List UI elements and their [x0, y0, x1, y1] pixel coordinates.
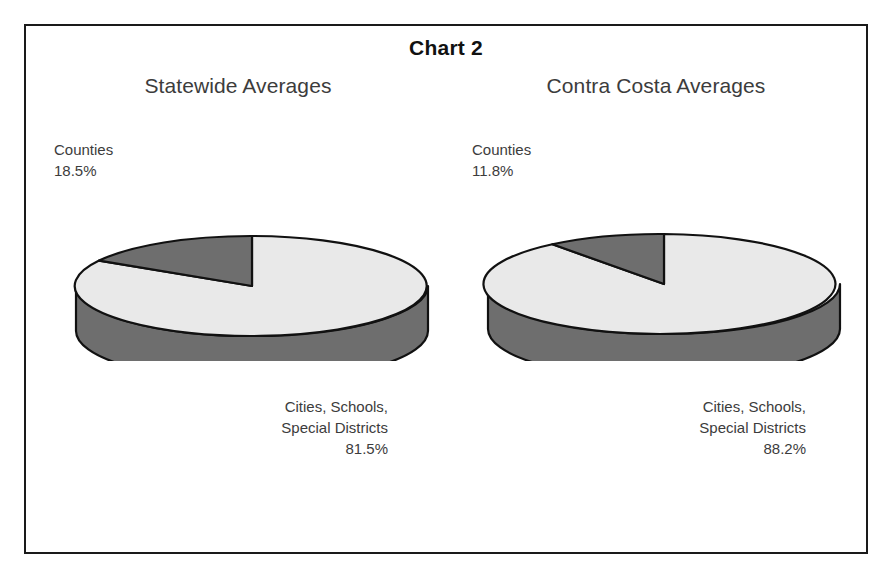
pie-label-counties-contracosta: Counties 11.8% [472, 139, 531, 181]
panel-subtitle-statewide: Statewide Averages [28, 74, 448, 98]
chart-figure-frame: Chart 2 Statewide Averages Counties 18.5… [24, 24, 868, 554]
pie-label-cities-statewide: Cities, Schools, Special Districts 81.5% [281, 396, 388, 459]
pie-chart-contracosta [446, 186, 866, 361]
pie-label-cities-contracosta: Cities, Schools, Special Districts 88.2% [699, 396, 806, 459]
pie-label-counties-statewide: Counties 18.5% [54, 139, 113, 181]
panel-statewide: Statewide Averages Counties 18.5% Cities… [28, 26, 448, 552]
panel-subtitle-contracosta: Contra Costa Averages [446, 74, 866, 98]
pie-chart-statewide [28, 186, 448, 361]
panel-contracosta: Contra Costa Averages Counties 11.8% Cit… [446, 26, 866, 552]
